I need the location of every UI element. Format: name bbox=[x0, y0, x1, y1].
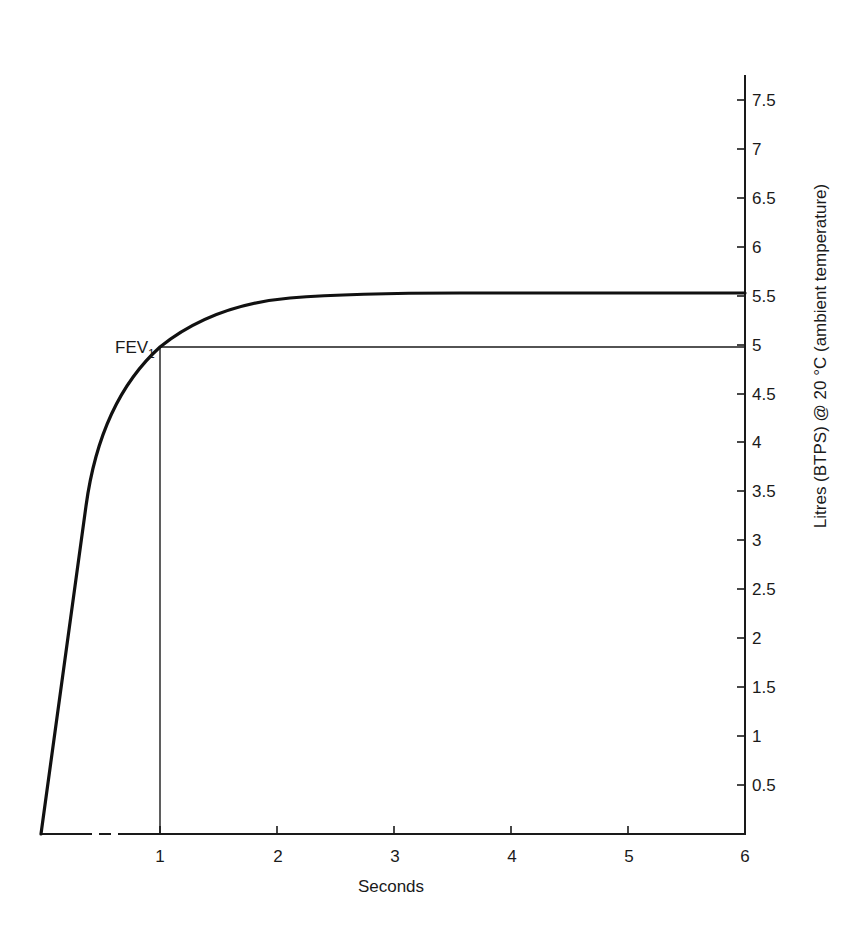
x-tick-label: 2 bbox=[273, 847, 282, 866]
y-tick-label: 2 bbox=[752, 629, 761, 648]
x-axis-title: Seconds bbox=[358, 877, 424, 896]
y-ticks bbox=[737, 100, 745, 785]
y-tick-label: 5 bbox=[752, 336, 761, 355]
y-tick-label: 0.5 bbox=[752, 776, 776, 795]
y-tick-label: 3.5 bbox=[752, 482, 776, 501]
y-tick-label: 1.5 bbox=[752, 678, 776, 697]
y-tick-label: 3 bbox=[752, 531, 761, 550]
x-tick-label: 4 bbox=[507, 847, 516, 866]
spirometry-chart: 1 2 3 4 5 6 Seconds 0.5 1 1.5 2 2.5 3 3.… bbox=[0, 0, 865, 946]
y-tick-label: 2.5 bbox=[752, 580, 776, 599]
x-tick-label: 5 bbox=[624, 847, 633, 866]
y-tick-labels: 0.5 1 1.5 2 2.5 3 3.5 4 4.5 5 5.5 6 6.5 … bbox=[752, 91, 776, 795]
y-tick-label: 7 bbox=[752, 140, 761, 159]
y-tick-label: 5.5 bbox=[752, 287, 776, 306]
y-axis-title: Litres (BTPS) @ 20 °C (ambient temperatu… bbox=[811, 184, 830, 528]
x-tick-label: 1 bbox=[155, 847, 164, 866]
y-tick-label: 6.5 bbox=[752, 189, 776, 208]
y-tick-label: 4.5 bbox=[752, 385, 776, 404]
x-ticks bbox=[160, 826, 628, 834]
fev1-label: FEV1 bbox=[115, 338, 155, 361]
x-tick-label: 3 bbox=[390, 847, 399, 866]
y-tick-label: 7.5 bbox=[752, 91, 776, 110]
volume-time-curve bbox=[41, 293, 745, 834]
y-tick-label: 6 bbox=[752, 238, 761, 257]
x-tick-labels: 1 2 3 4 5 6 bbox=[155, 847, 749, 866]
y-tick-label: 4 bbox=[752, 433, 761, 452]
x-tick-label: 6 bbox=[740, 847, 749, 866]
y-tick-label: 1 bbox=[752, 727, 761, 746]
